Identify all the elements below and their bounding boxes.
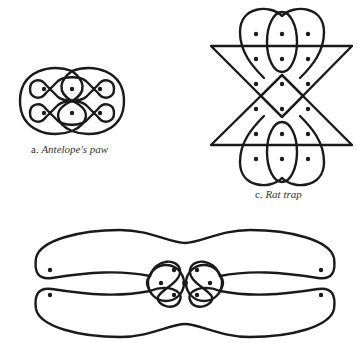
rat-trap-top-oval xyxy=(267,12,297,72)
caption-letter: c. xyxy=(255,188,263,200)
dot xyxy=(280,32,284,36)
rat-trap-bottom-oval xyxy=(267,122,297,182)
dot xyxy=(306,82,310,86)
dot xyxy=(280,82,284,86)
dot xyxy=(70,111,74,115)
dot xyxy=(319,293,323,297)
dot xyxy=(172,293,176,297)
dot xyxy=(159,281,163,285)
dot xyxy=(306,157,310,161)
dot xyxy=(319,268,323,272)
dot xyxy=(280,157,284,161)
center-dot xyxy=(182,280,188,286)
caption-rat-trap: c. Rat trap xyxy=(255,188,302,200)
dot xyxy=(280,57,284,61)
dot xyxy=(208,281,212,285)
dot xyxy=(306,57,310,61)
caption-letter: a. xyxy=(31,143,39,155)
dot xyxy=(254,32,258,36)
dot xyxy=(48,293,52,297)
rat-trap-drawing xyxy=(211,9,352,185)
dot xyxy=(280,132,284,136)
bottom-upper-band xyxy=(36,230,335,278)
sand-drawings-canvas xyxy=(0,0,357,343)
dot xyxy=(172,268,176,272)
rat-trap-top-triangle xyxy=(211,46,352,117)
antelope-paw-drawing xyxy=(20,68,124,134)
dot xyxy=(48,268,52,272)
bottom-lower-band xyxy=(36,289,335,337)
dot xyxy=(195,268,199,272)
dot xyxy=(42,87,46,91)
dot xyxy=(98,111,102,115)
dot xyxy=(254,57,258,61)
dot xyxy=(254,82,258,86)
caption-name: Rat trap xyxy=(265,188,301,200)
caption-name: Antelope's paw xyxy=(41,143,108,155)
dot xyxy=(42,111,46,115)
bottom-band-drawing xyxy=(36,230,335,337)
dot xyxy=(254,157,258,161)
bottom-right-knot-circle xyxy=(186,265,222,301)
dot xyxy=(254,132,258,136)
dot xyxy=(280,107,284,111)
dot xyxy=(306,107,310,111)
dot xyxy=(254,107,258,111)
bottom-left-knot-circle xyxy=(148,265,184,301)
dot xyxy=(70,87,74,91)
dot xyxy=(195,293,199,297)
dot xyxy=(306,32,310,36)
dot xyxy=(98,87,102,91)
antelope-paw-outer-cross xyxy=(61,71,82,101)
dot xyxy=(306,132,310,136)
caption-antelope-paw: a. Antelope's paw xyxy=(31,143,108,155)
